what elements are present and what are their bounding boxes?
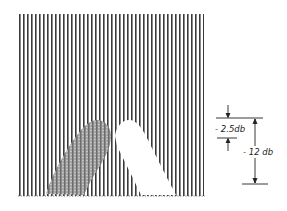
line-grating (19, 14, 204, 196)
large-dimension-label: - 12 db (243, 147, 273, 157)
attenuation-annotations (216, 105, 268, 184)
diagram: - 2.5db - 12 db (0, 0, 287, 211)
small-dimension-label: - 2.5db (215, 124, 245, 134)
